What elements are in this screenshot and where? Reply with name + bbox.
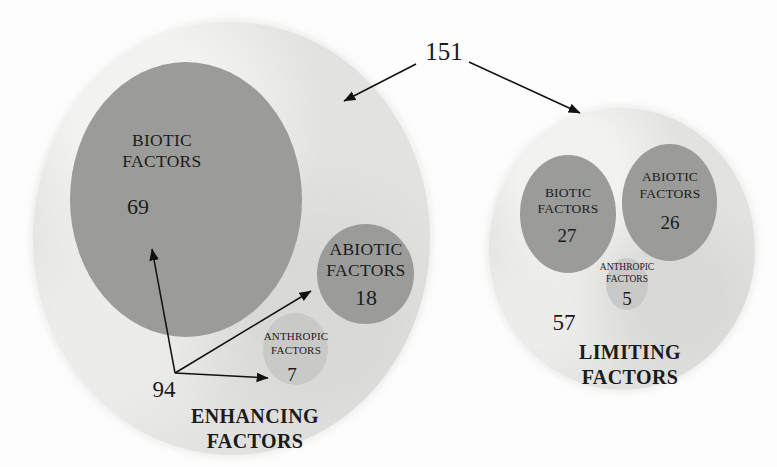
limiting-biotic-value: 27 [544, 225, 590, 246]
enhancing-total-value: 94 [138, 377, 190, 403]
enhancing-biotic-circle [70, 62, 302, 337]
limiting-abiotic-label-line2: FACTORS [623, 186, 717, 201]
enhancing-anthropic-value: 7 [272, 364, 312, 385]
enhancing-group-title-line2: FACTORS [165, 429, 345, 454]
limiting-abiotic-label-line1: ABIOTIC [623, 169, 717, 184]
limiting-biotic-label-line1: BIOTIC [521, 185, 615, 200]
limiting-anthropic-label-line2: FACTORS [580, 274, 674, 285]
limiting-total-value: 57 [538, 310, 590, 336]
diagram-canvas: BIOTIC FACTORS 69 ABIOTIC FACTORS 18 ANT… [0, 0, 777, 467]
limiting-biotic-label-line2: FACTORS [521, 201, 615, 216]
enhancing-abiotic-value: 18 [341, 286, 391, 311]
limiting-anthropic-label-line1: ANTHROPIC [580, 262, 674, 273]
limiting-anthropic-value: 5 [607, 288, 647, 309]
enhancing-anthropic-label-line2: FACTORS [248, 344, 344, 356]
enhancing-biotic-value: 69 [113, 195, 163, 220]
limiting-group-title-line1: LIMITING [545, 340, 715, 365]
limiting-group-title-line2: FACTORS [545, 365, 715, 390]
enhancing-abiotic-label-line2: FACTORS [316, 261, 416, 281]
limiting-abiotic-value: 26 [647, 212, 693, 233]
arrow-151-to-limiting [469, 62, 580, 113]
enhancing-biotic-label-line1: BIOTIC [107, 131, 217, 151]
enhancing-abiotic-label-line1: ABIOTIC [316, 240, 416, 260]
enhancing-anthropic-label-line1: ANTHROPIC [248, 330, 344, 342]
enhancing-biotic-label-line2: FACTORS [107, 152, 217, 172]
limiting-abiotic-circle [622, 144, 717, 261]
enhancing-group-title-line1: ENHANCING [165, 404, 345, 429]
grand-total-value: 151 [414, 38, 474, 66]
